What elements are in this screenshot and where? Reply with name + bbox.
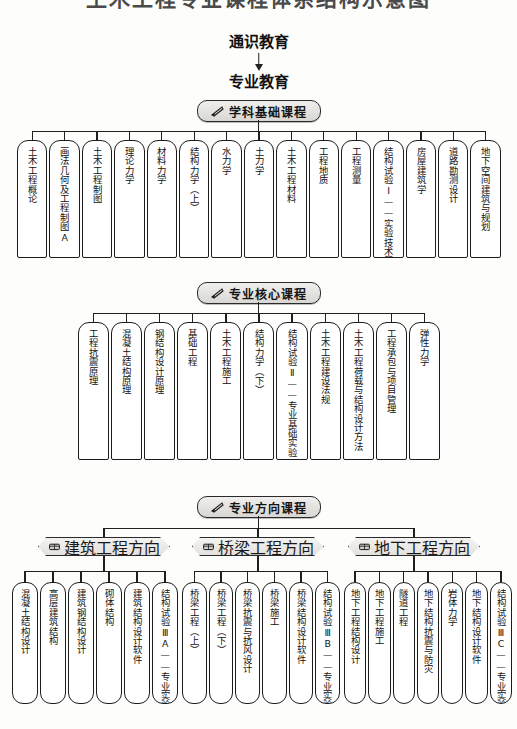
course-box[interactable]: 地下工程施工: [368, 582, 390, 704]
connector-stem: [323, 131, 324, 140]
connector-stem: [476, 571, 477, 582]
section-header-major-core[interactable]: 专业核心课程: [197, 282, 321, 304]
connector-stem: [257, 556, 258, 571]
course-box[interactable]: 结构试验ⅢB——专业实验: [315, 582, 340, 704]
connector-stem: [93, 313, 94, 322]
course-box[interactable]: 基础工程: [177, 322, 208, 460]
course-box[interactable]: 隧道工程: [393, 582, 415, 704]
course-label: 桥梁抗震与抗风设计: [242, 583, 253, 678]
course-box[interactable]: 地下空间建筑与规划: [470, 140, 500, 258]
course-box[interactable]: 结构试验Ⅰ——实验技术基础: [373, 140, 403, 258]
connector-stem: [96, 131, 97, 140]
connector-stem: [291, 313, 292, 322]
connector-bus: [194, 571, 327, 572]
course-box[interactable]: 岩体力学: [441, 582, 463, 704]
course-box[interactable]: 土木工程荷载与结构设计方法: [343, 322, 374, 460]
course-label: 岩体力学: [447, 583, 458, 631]
course-label: 结构力学（下）: [253, 323, 264, 399]
course-box[interactable]: 弹性力学: [409, 322, 440, 460]
course-row-discipline-foundation: 土木工程概论画法几何及工程制图A土木工程制图理论力学材料力学结构力学（上）水力学…: [17, 140, 501, 258]
course-label: 建筑钢结构设计: [75, 583, 86, 659]
connector-vertical: [258, 516, 259, 528]
course-label: 结构力学（上）: [188, 141, 199, 217]
course-box[interactable]: 结构力学（上）: [179, 140, 209, 258]
course-box[interactable]: 地下结构设计软件: [465, 582, 487, 704]
book-icon: [203, 537, 214, 556]
course-box[interactable]: 水力学: [211, 140, 241, 258]
course-label: 桥梁施工: [269, 583, 280, 631]
course-label: 土力学: [253, 141, 264, 179]
branch-chip-building-engineering[interactable]: 建筑工程方向: [38, 537, 170, 556]
course-box[interactable]: 地下工程结构设计: [344, 582, 366, 704]
course-box[interactable]: 土木工程概论: [17, 140, 47, 258]
connector-stem: [247, 571, 248, 582]
course-box[interactable]: 结构试验Ⅱ——专业基础实验: [276, 322, 307, 460]
course-box[interactable]: 桥梁工程（下）: [209, 582, 234, 704]
course-box[interactable]: 工程测量: [341, 140, 371, 258]
course-box[interactable]: 建筑结构设计软件: [124, 582, 150, 704]
course-box[interactable]: 理论力学: [114, 140, 144, 258]
course-label: 混凝土结构原理: [121, 323, 132, 399]
connector-bus: [104, 528, 414, 529]
course-box[interactable]: 桥梁施工: [262, 582, 287, 704]
course-box[interactable]: 道路勘测设计: [438, 140, 468, 258]
connector-stem: [500, 571, 501, 582]
course-box[interactable]: 工程承包与项目管理: [376, 322, 407, 460]
course-label: 弹性力学: [419, 323, 430, 371]
book-icon: [359, 537, 370, 556]
course-box[interactable]: 高层建筑结构: [40, 582, 66, 704]
connector-stem: [258, 131, 259, 140]
connector-stem: [103, 556, 104, 571]
section-header-label: 学科基础课程: [229, 103, 307, 120]
connector-stem: [164, 571, 165, 582]
course-label: 桥梁工程（上）: [189, 583, 200, 659]
course-label: 工程地质: [318, 141, 329, 189]
course-box[interactable]: 土木工程制图: [82, 140, 112, 258]
course-box[interactable]: 砌体结构: [96, 582, 122, 704]
course-box[interactable]: 材料力学: [147, 140, 177, 258]
course-box[interactable]: 钢结构设计原理: [144, 322, 175, 460]
course-box[interactable]: 工程地质: [309, 140, 339, 258]
connector-stem: [108, 571, 109, 582]
course-box[interactable]: 土木工程建设法规: [310, 322, 341, 460]
course-box[interactable]: 桥梁结构设计软件: [289, 582, 314, 704]
course-box[interactable]: 画法几何及工程制图A: [49, 140, 79, 258]
course-label: 地下结构抗震与防灾: [422, 583, 433, 678]
connector-stem: [192, 313, 193, 322]
course-box[interactable]: 土力学: [244, 140, 274, 258]
document-title-text: 土木工程专业课程体系结构示意图: [0, 0, 517, 12]
connector-stem: [358, 313, 359, 322]
course-box[interactable]: 桥梁抗震与抗风设计: [235, 582, 260, 704]
course-box[interactable]: 房屋建筑学: [406, 140, 436, 258]
course-box[interactable]: 土木工程施工: [210, 322, 241, 460]
course-box[interactable]: 工程抗震原理: [78, 322, 109, 460]
branch-chip-bridge-engineering[interactable]: 桥梁工程方向: [192, 537, 324, 556]
course-label: 土木工程材料: [286, 141, 297, 207]
course-label: 道路勘测设计: [448, 141, 459, 207]
connector-stem: [64, 131, 65, 140]
connector-stem: [327, 571, 328, 582]
course-box[interactable]: 结构试验ⅢA——专业实验: [152, 582, 178, 704]
course-box[interactable]: 混凝土结构设计: [12, 582, 38, 704]
course-box[interactable]: 建筑钢结构设计: [68, 582, 94, 704]
major-education-label: 专业教育: [0, 72, 517, 92]
course-box[interactable]: 结构试验ⅢC——专业实验: [490, 582, 512, 704]
course-label: 砌体结构: [103, 583, 114, 631]
course-box[interactable]: 桥梁工程（上）: [182, 582, 207, 704]
section-header-major-direction[interactable]: 专业方向课程: [197, 496, 321, 518]
connector-stem: [80, 571, 81, 582]
connector-stem: [485, 131, 486, 140]
top-flow: 通识教育 专业教育: [0, 32, 517, 92]
section-header-discipline-foundation[interactable]: 学科基础课程: [197, 100, 321, 122]
branch-chip-underground-engineering[interactable]: 地下工程方向: [348, 537, 480, 556]
course-label: 建筑结构设计软件: [131, 583, 142, 668]
course-box[interactable]: 混凝土结构原理: [111, 322, 142, 460]
connector-stem: [129, 131, 130, 140]
connector-stem: [226, 131, 227, 140]
course-box[interactable]: 土木工程材料: [276, 140, 306, 258]
connector-stem: [391, 313, 392, 322]
course-box[interactable]: 结构力学（下）: [243, 322, 274, 460]
section-header-label: 专业核心课程: [229, 285, 307, 302]
connector-stem: [161, 131, 162, 140]
course-box[interactable]: 地下结构抗震与防灾: [417, 582, 439, 704]
